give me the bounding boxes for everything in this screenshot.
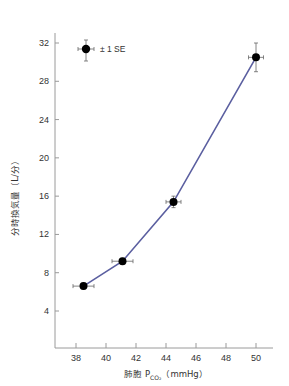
- data-point: [112, 257, 133, 265]
- x-tick-label: 48: [221, 353, 231, 363]
- legend: ± 1 SE: [78, 40, 126, 61]
- x-axis-title: 肺胞 PCO₂（mmHg）: [124, 369, 208, 381]
- point-marker: [252, 53, 260, 61]
- x-tick-label: 38: [71, 353, 81, 363]
- axes: [55, 33, 273, 348]
- legend-marker-icon: [78, 40, 94, 61]
- y-tick-label: 20: [39, 153, 49, 163]
- y-axis-title: 分時換気量（L/分）: [10, 156, 20, 236]
- series-line: [84, 57, 257, 286]
- chart: 4812162024283238404244464850 ± 1 SE 分時換気…: [0, 0, 289, 386]
- point-marker: [80, 282, 88, 290]
- x-tick-label: 42: [131, 353, 141, 363]
- data-series: [73, 43, 264, 290]
- x-tick-label: 50: [251, 353, 261, 363]
- y-tick-label: 16: [39, 191, 49, 201]
- data-point: [166, 196, 181, 207]
- x-tick-label: 40: [101, 353, 111, 363]
- legend-point: [82, 45, 90, 53]
- x-tick-label: 46: [191, 353, 201, 363]
- x-tick-label: 44: [161, 353, 171, 363]
- y-tick-label: 24: [39, 115, 49, 125]
- legend-label: ± 1 SE: [100, 44, 126, 54]
- y-tick-label: 12: [39, 229, 49, 239]
- x-axis-title-subscript: CO₂: [150, 374, 162, 381]
- x-axis-title-suffix: （mmHg）: [161, 369, 207, 379]
- y-tick-label: 4: [44, 306, 49, 316]
- point-marker: [170, 198, 178, 206]
- ticks: 4812162024283238404244464850: [39, 38, 261, 363]
- y-tick-label: 8: [44, 268, 49, 278]
- y-tick-label: 32: [39, 38, 49, 48]
- x-axis-title-prefix: 肺胞 P: [124, 369, 150, 379]
- y-tick-label: 28: [39, 76, 49, 86]
- point-marker: [119, 257, 127, 265]
- data-point: [73, 282, 94, 290]
